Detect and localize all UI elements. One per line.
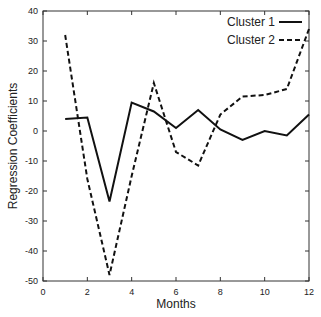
x-tick-label: 6 (173, 287, 178, 297)
x-tick-label: 4 (129, 287, 134, 297)
x-tick-label: 8 (218, 287, 223, 297)
y-axis-label: Regression Coefficients (6, 83, 20, 210)
x-tick-label: 2 (85, 287, 90, 297)
y-tick-label: 20 (28, 66, 38, 76)
series-line-cluster-2 (65, 29, 309, 275)
y-tick-label: -30 (25, 216, 38, 226)
legend: Cluster 1Cluster 2 (227, 15, 302, 47)
x-tick-label: 0 (40, 287, 45, 297)
x-tick-label: 12 (304, 287, 314, 297)
y-tick-label: 40 (28, 6, 38, 16)
legend-label: Cluster 2 (227, 33, 275, 47)
x-tick-label: 10 (260, 287, 270, 297)
y-tick-label: -10 (25, 156, 38, 166)
axis-ticks: 024681012-50-40-30-20-10010203040 (25, 6, 314, 297)
y-tick-label: 30 (28, 36, 38, 46)
y-tick-label: 10 (28, 96, 38, 106)
y-tick-label: -40 (25, 246, 38, 256)
line-chart: 024681012-50-40-30-20-10010203040 Cluste… (0, 0, 321, 317)
y-tick-label: 0 (33, 126, 38, 136)
series-line-cluster-1 (65, 103, 309, 202)
y-tick-label: -20 (25, 186, 38, 196)
y-tick-label: -50 (25, 276, 38, 286)
data-series (65, 29, 309, 275)
legend-label: Cluster 1 (227, 15, 275, 29)
x-axis-label: Months (156, 297, 195, 311)
